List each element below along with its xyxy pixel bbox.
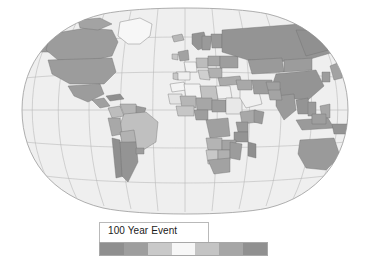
- country-canada: [46, 28, 118, 62]
- country-afghanistan: [266, 82, 280, 90]
- country-finland: [211, 34, 222, 48]
- country-portugal: [173, 73, 178, 80]
- country-australia: [298, 138, 340, 170]
- country-morocco: [170, 82, 186, 92]
- country-kenya: [236, 122, 248, 132]
- world-map-figure: 100 Year Event: [0, 0, 370, 275]
- legend-swatch-7: [243, 243, 267, 255]
- country-korea: [322, 72, 330, 82]
- legend-title: 100 Year Event: [108, 225, 177, 236]
- country-mongolia: [284, 58, 312, 72]
- country-balkans: [208, 68, 222, 78]
- country-egypt: [216, 86, 232, 99]
- country-mauritania: [168, 94, 182, 104]
- country-poland: [208, 56, 220, 66]
- country-france: [184, 62, 197, 72]
- country-iraq-syria: [236, 80, 252, 90]
- country-madagascar: [248, 142, 256, 158]
- country-sudan: [226, 98, 242, 114]
- country-mozambique: [230, 142, 242, 160]
- legend-swatch-6: [219, 243, 243, 255]
- country-ukraine: [220, 56, 238, 68]
- country-papua-new-guinea: [332, 124, 348, 134]
- country-drc: [206, 118, 230, 138]
- country-bolivia: [120, 130, 136, 143]
- country-chad: [212, 100, 226, 112]
- country-niger: [196, 98, 212, 110]
- country-guinea-coast: [176, 106, 194, 116]
- legend-swatch-2: [124, 243, 148, 255]
- legend-swatch-3: [148, 243, 172, 255]
- country-ireland: [172, 54, 178, 60]
- country-sweden: [202, 36, 212, 50]
- country-united-kingdom: [178, 50, 189, 61]
- country-new-zealand: [344, 166, 354, 184]
- legend-swatch-5: [195, 243, 219, 255]
- country-somalia: [254, 110, 264, 124]
- country-nigeria: [194, 110, 208, 120]
- country-kazakhstan: [248, 58, 284, 74]
- country-germany: [196, 58, 208, 68]
- country-angola: [206, 138, 222, 150]
- legend-color-bar: [99, 242, 268, 256]
- legend-swatch-4: [172, 243, 196, 255]
- country-uruguay: [136, 148, 144, 154]
- country-italy: [198, 70, 210, 80]
- country-borneo: [312, 114, 326, 124]
- legend-swatch-1: [100, 243, 124, 255]
